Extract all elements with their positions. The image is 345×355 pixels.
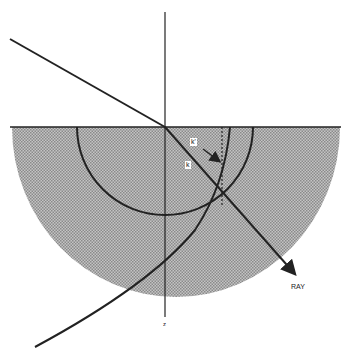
refraction-diagram xyxy=(0,0,345,355)
ray-label: RAY xyxy=(290,283,306,291)
medium-region xyxy=(12,127,340,297)
k-prime-label: k' xyxy=(190,138,197,146)
incident-ray xyxy=(10,39,165,127)
k-label: k xyxy=(185,161,191,169)
z-axis-label: z xyxy=(162,320,167,328)
